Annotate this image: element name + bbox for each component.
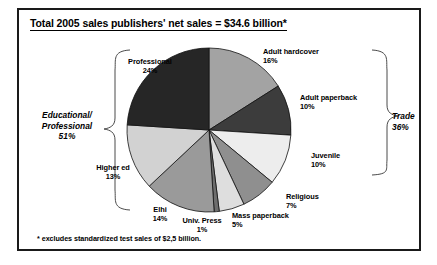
slice-label-higher-ed: Higher ed 13%: [84, 163, 142, 181]
group-label-trade-value: 36%: [392, 122, 409, 132]
group-label-trade: Trade 36%: [392, 111, 432, 132]
slice-label-higher-ed-name: Higher ed: [96, 163, 130, 172]
slice-label-religious-value: 7%: [286, 201, 319, 210]
group-label-educational-professional-line2: Professional: [42, 121, 92, 131]
slice-label-higher-ed-value: 13%: [84, 172, 142, 181]
slice-label-religious-name: Religious: [286, 192, 319, 201]
group-label-educational-professional-value: 51%: [59, 131, 76, 141]
slice-label-adult-hardcover-name: Adult hardcover: [263, 47, 319, 56]
slice-label-religious: Religious 7%: [286, 192, 319, 210]
group-label-trade-line1: Trade: [392, 111, 415, 121]
slice-label-juvenile-value: 10%: [311, 160, 340, 169]
slice-label-adult-hardcover: Adult hardcover 16%: [263, 47, 319, 65]
slice-label-mass-paperback: Mass paperback 5%: [232, 211, 289, 229]
chart-footnote: * excludes standardized test sales of $2…: [37, 234, 201, 243]
slice-label-adult-hardcover-value: 16%: [263, 56, 319, 65]
slice-label-juvenile: Juvenile 10%: [311, 151, 340, 169]
slice-label-univ-press: Univ. Press 1%: [177, 216, 227, 234]
slice-label-professional-value: 24%: [110, 66, 190, 75]
slice-label-elhi: Elhi 14%: [143, 205, 177, 223]
slice-label-mass-paperback-name: Mass paperback: [232, 211, 289, 220]
slice-label-adult-paperback: Adult paperback 10%: [300, 93, 357, 111]
slice-label-juvenile-name: Juvenile: [311, 151, 340, 160]
figure-container: Total 2005 sales publishers' net sales =…: [0, 0, 437, 265]
group-label-educational-professional-line1: Educational/: [42, 110, 92, 120]
slice-label-adult-paperback-value: 10%: [300, 102, 357, 111]
slice-label-professional-name: Professional: [128, 57, 172, 66]
slice-label-adult-paperback-name: Adult paperback: [300, 93, 357, 102]
slice-label-professional: Professional 24%: [110, 57, 190, 75]
slice-label-elhi-value: 14%: [143, 214, 177, 223]
slice-label-mass-paperback-value: 5%: [232, 220, 289, 229]
group-label-educational-professional: Educational/ Professional 51%: [28, 110, 106, 142]
slice-label-univ-press-name: Univ. Press: [182, 216, 221, 225]
slice-label-elhi-name: Elhi: [153, 205, 166, 214]
